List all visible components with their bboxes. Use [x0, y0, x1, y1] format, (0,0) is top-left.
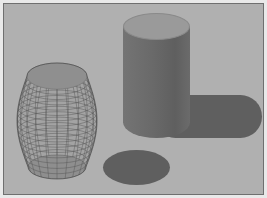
- mesh-barrel-svg: [15, 59, 99, 184]
- barrel-shadow: [103, 150, 170, 185]
- figure-frame: [3, 3, 264, 195]
- render-scene: [4, 4, 263, 194]
- solid-cylinder-top-cap: [123, 13, 190, 40]
- mesh-barrel: [15, 59, 99, 184]
- solid-cylinder-body: [123, 26, 190, 138]
- figure-root: [0, 0, 267, 198]
